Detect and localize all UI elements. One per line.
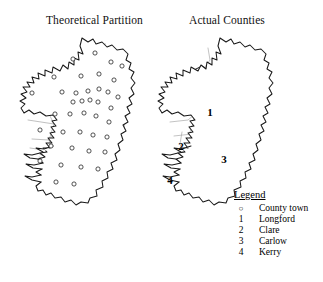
county-town-marker: [96, 167, 100, 171]
legend-label-county-town: County town: [251, 203, 308, 214]
county-number-longford: 1: [207, 106, 213, 118]
county-town-marker: [54, 180, 58, 184]
panel-title-actual: Actual Counties: [189, 14, 265, 26]
legend-key-1: 1: [231, 214, 251, 225]
county-town-marker: [38, 159, 42, 163]
county-town-marker: [78, 130, 82, 134]
county-town-marker: [71, 100, 75, 104]
county-town-marker: [70, 146, 74, 150]
legend-label-kerry: Kerry: [251, 247, 281, 258]
county-number-clare: 2: [178, 140, 184, 152]
legend-label-clare: Clare: [251, 225, 280, 236]
county-town-marker: [68, 112, 72, 116]
county-town-marker: [96, 100, 100, 104]
legend-item-kerry: 4 Kerry: [231, 247, 323, 258]
county-town-marker: [72, 182, 76, 186]
county-town-marker: [120, 64, 124, 68]
map-theoretical-partition: [10, 36, 143, 206]
legend-key-4: 4: [231, 247, 251, 258]
county-town-marker: [86, 89, 90, 93]
panel-title-theoretical: Theoretical Partition: [46, 14, 143, 26]
county-town-marker: [94, 114, 98, 118]
county-town-marker: [107, 120, 111, 124]
county-town-marker: [59, 163, 63, 167]
figure-root: Theoretical Partition Actual Counties: [0, 0, 323, 282]
county-town-marker: [87, 149, 91, 153]
county-town-marker: [116, 95, 120, 99]
county-town-marker: [30, 91, 34, 95]
legend: Legend ○ County town 1 Longford 2 Clare …: [231, 189, 323, 258]
legend-label-longford: Longford: [251, 214, 295, 225]
legend-key-3: 3: [231, 236, 251, 247]
county-town-marker: [79, 165, 83, 169]
county-number-kerry: 4: [167, 174, 173, 186]
county-number-carlow: 3: [221, 153, 227, 165]
legend-label-carlow: Carlow: [251, 236, 287, 247]
county-town-marker: [106, 90, 110, 94]
county-town-marker: [112, 78, 116, 82]
county-town-marker: [103, 150, 107, 154]
county-town-marker: [97, 72, 101, 76]
county-town-marker: [109, 60, 113, 64]
county-town-marker: [52, 75, 56, 79]
legend-item-longford: 1 Longford: [231, 214, 323, 225]
legend-item-clare: 2 Clare: [231, 225, 323, 236]
county-town-circle-icon: ○: [231, 203, 251, 214]
county-town-marker: [71, 57, 75, 61]
county-town-marker: [49, 144, 53, 148]
county-town-marker: [61, 130, 65, 134]
county-town-marker: [80, 99, 84, 103]
map-actual-counties: 1234: [148, 36, 281, 206]
county-town-marker: [38, 128, 42, 132]
county-town-marker: [91, 133, 95, 137]
county-town-marker: [93, 51, 97, 55]
county-town-marker: [88, 98, 92, 102]
legend-key-2: 2: [231, 225, 251, 236]
legend-item-county-town: ○ County town: [231, 203, 323, 214]
county-town-marker: [60, 90, 64, 94]
legend-item-carlow: 3 Carlow: [231, 236, 323, 247]
county-town-marker: [97, 87, 101, 91]
county-town-marker: [79, 74, 83, 78]
legend-title: Legend: [234, 189, 323, 201]
county-town-marker: [53, 112, 57, 116]
county-town-marker: [82, 111, 86, 115]
county-town-marker: [74, 91, 78, 95]
county-town-marker: [105, 135, 109, 139]
county-town-marker: [109, 106, 113, 110]
